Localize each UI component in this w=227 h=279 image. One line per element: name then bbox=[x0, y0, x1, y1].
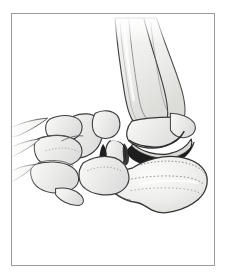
cuboid-group bbox=[79, 156, 129, 194]
metatarsal-tuberosity bbox=[56, 188, 84, 205]
cuneiform-lateral-stipple bbox=[92, 111, 120, 139]
cuboid-stipple bbox=[79, 156, 129, 194]
fade-overlay-left bbox=[12, 105, 38, 200]
fade-overlay-top bbox=[89, 14, 202, 44]
figure-border-frame bbox=[11, 13, 215, 266]
anatomical-illustration-canvas bbox=[12, 14, 214, 265]
illustration-figure bbox=[0, 0, 227, 279]
